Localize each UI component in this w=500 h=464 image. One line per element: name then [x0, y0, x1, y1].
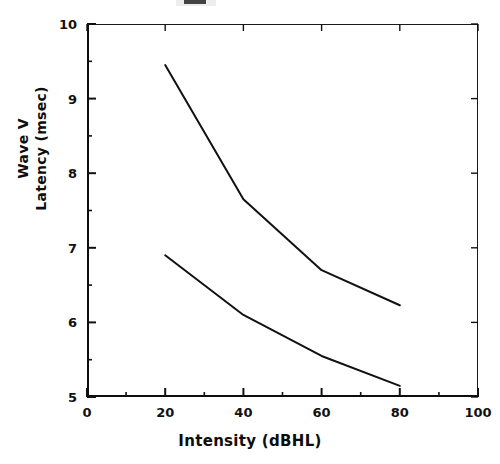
x-tick-label: 0 — [82, 405, 91, 420]
y-tick-label: 10 — [41, 17, 77, 32]
x-axis-title: Intensity (dBHL) — [0, 432, 500, 450]
y-tick-label: 6 — [41, 315, 77, 330]
x-tick-label: 40 — [234, 405, 252, 420]
y-axis-title-line1: Wave V — [15, 118, 31, 179]
x-tick-label: 100 — [464, 405, 491, 420]
y-tick-label: 5 — [41, 390, 77, 405]
plot-area-frame — [87, 24, 478, 397]
x-tick-label: 80 — [391, 405, 409, 420]
chart-figure: 5678910 020406080100 Wave V Latency (mse… — [0, 0, 500, 464]
x-tick-label: 20 — [156, 405, 174, 420]
cropped-title-remnant — [184, 0, 206, 4]
y-axis-title-line2: Latency (msec) — [32, 38, 50, 258]
x-tick-label: 60 — [313, 405, 331, 420]
y-axis-title: Wave V Latency (msec) — [14, 38, 51, 258]
